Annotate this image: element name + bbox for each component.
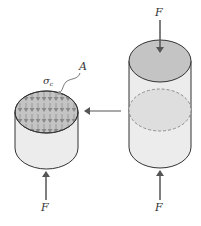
right-cylinder [129,40,191,168]
area-leader-line [58,73,80,94]
force-label-bottom-right: F [154,201,163,214]
stress-label: σc [43,75,54,87]
area-label: A [78,60,87,73]
force-label-top: F [154,6,163,19]
compression-diagram: F F [0,0,201,226]
left-cylinder [15,91,78,169]
section-plane-dashed [129,89,191,131]
force-label-bottom-left: F [40,201,49,214]
